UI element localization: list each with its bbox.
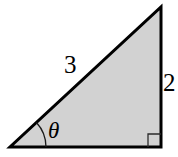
theta-angle-label: θ [48,119,59,142]
right-triangle-figure: 3 2 θ [0,0,178,157]
triangle-shape [10,7,161,147]
vertical-leg-length-label: 2 [163,70,176,95]
hypotenuse-length-label: 3 [64,52,77,77]
triangle-graphic [0,0,178,157]
